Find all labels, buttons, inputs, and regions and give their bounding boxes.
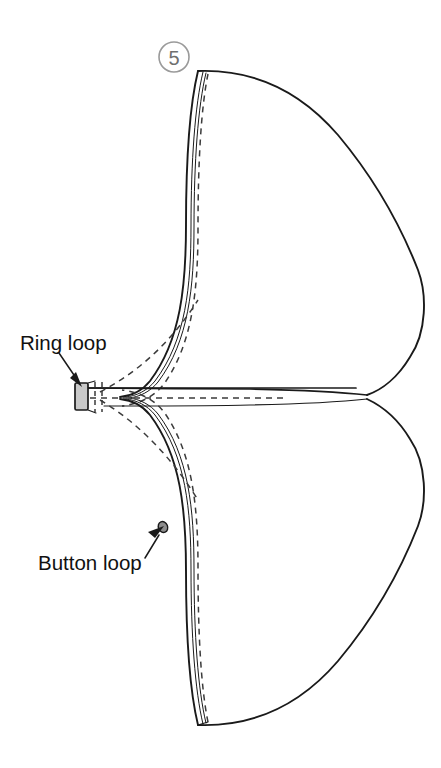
- upper-panel-fold-edge-outer: [120, 71, 198, 397]
- ring-loop-tab: [75, 381, 96, 413]
- lower-panel-fill: [192, 399, 424, 725]
- pattern-diagram: 5 Ring loop Button loop: [0, 0, 441, 768]
- callout-button-loop-leader: [145, 535, 159, 558]
- upper-panel-fold-edge-inner: [126, 72, 203, 397]
- upper-panel-fill: [192, 71, 424, 395]
- callout-button-loop-label: Button loop: [38, 551, 142, 574]
- upper-panel: [89, 71, 424, 406]
- callout-ring-loop: Ring loop: [20, 331, 107, 387]
- ring-loop-tab-body: [75, 383, 88, 410]
- callout-ring-loop-leader: [59, 353, 76, 378]
- centre-radiating-stitch-upper: [100, 300, 198, 392]
- step-number-badge: 5: [159, 42, 189, 72]
- ring-loop-tab-top-tick: [88, 381, 95, 383]
- step-number-label: 5: [168, 47, 179, 69]
- callout-button-loop: Button loop: [38, 526, 164, 574]
- lower-panel: [104, 390, 424, 725]
- callout-ring-loop-label: Ring loop: [20, 331, 107, 354]
- diagram-canvas: 5 Ring loop Button loop: [0, 0, 441, 768]
